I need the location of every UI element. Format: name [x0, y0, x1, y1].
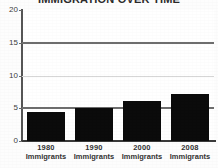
bar-2000 — [123, 101, 161, 141]
x-label-year: 2008 — [166, 143, 214, 152]
chart-title: IMMIGRATION OVER TIME — [0, 0, 218, 5]
bar-2008 — [171, 94, 209, 141]
y-tick-label-0: 0 — [0, 137, 18, 145]
bar-1990 — [75, 108, 113, 141]
x-label-2008: 2008Immigrants — [166, 143, 214, 161]
y-tick-label-5: 5 — [0, 104, 18, 112]
x-label-year: 2000 — [118, 143, 166, 152]
x-label-1980: 1980Immigrants — [22, 143, 70, 161]
immigration-bar-chart: IMMIGRATION OVER TIME 05101520 1980Immig… — [0, 0, 218, 168]
x-label-category: Immigrants — [70, 152, 118, 161]
y-tick-label-15: 15 — [0, 39, 18, 47]
x-label-2000: 2000Immigrants — [118, 143, 166, 161]
y-tick-label-10: 10 — [0, 72, 18, 80]
x-label-category: Immigrants — [22, 152, 70, 161]
x-label-category: Immigrants — [166, 152, 214, 161]
bar-1980 — [27, 112, 65, 141]
x-label-1990: 1990Immigrants — [70, 143, 118, 161]
x-axis-labels: 1980Immigrants1990Immigrants2000Immigran… — [22, 143, 214, 167]
x-label-year: 1980 — [22, 143, 70, 152]
x-label-year: 1990 — [70, 143, 118, 152]
x-label-category: Immigrants — [118, 152, 166, 161]
bars-series — [22, 10, 214, 141]
y-tick-mark-0 — [19, 141, 22, 142]
y-tick-label-20: 20 — [0, 6, 18, 14]
